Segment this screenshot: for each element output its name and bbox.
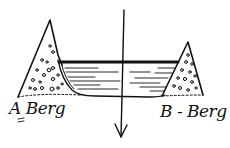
water-hatching	[65, 68, 175, 91]
diagram-canvas	[0, 0, 230, 148]
label-b-berg: B - Berg	[160, 103, 227, 120]
down-arrow-icon	[115, 10, 127, 137]
label-a-underline	[18, 118, 24, 122]
water-basin	[58, 60, 178, 97]
mountain-b	[162, 42, 203, 96]
label-a-berg: A Berg	[9, 100, 65, 117]
